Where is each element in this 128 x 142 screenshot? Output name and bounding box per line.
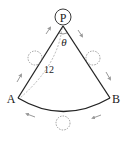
sector-diagram: P θ 12 A B [0,0,128,142]
arrow-icon [106,72,110,79]
rolling-circle-bottom [56,116,70,130]
arrow-icon [17,75,21,82]
arrow-icon [46,28,50,34]
label-theta: θ [61,36,67,48]
label-P: P [60,11,67,25]
rolling-circle-right [86,51,100,65]
label-length: 12 [44,64,54,75]
label-A: A [7,92,16,106]
arrow-icon [27,114,35,117]
radius-PB [63,26,110,98]
arrow-icon [93,115,101,118]
arc-AB [18,98,110,112]
rolling-circle-left [28,51,42,65]
radius-PA [18,26,63,98]
angle-arc [59,33,67,34]
label-B: B [112,92,120,106]
arrow-icon [78,30,82,36]
